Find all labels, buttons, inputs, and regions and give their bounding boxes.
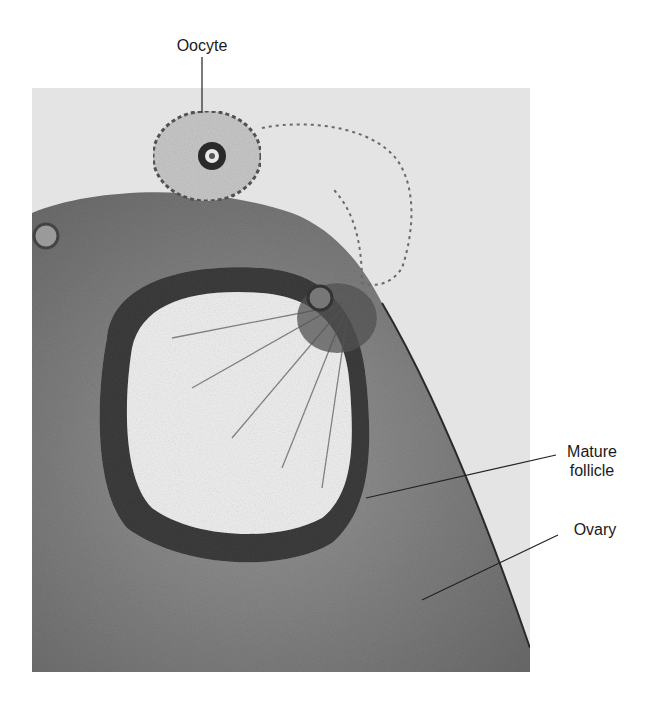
oocyte-label: Oocyte <box>162 36 242 55</box>
mature-follicle-label-line2: follicle <box>552 461 632 480</box>
ovary-label: Ovary <box>560 520 630 539</box>
leader-lines <box>0 0 662 713</box>
oocyte-label-text: Oocyte <box>177 37 228 54</box>
ovary-label-text: Ovary <box>574 521 617 538</box>
mature-follicle-label: Mature follicle <box>552 442 632 480</box>
mature-follicle-label-line1: Mature <box>552 442 632 461</box>
ovary-leader <box>422 535 558 600</box>
mature-follicle-leader <box>366 455 556 498</box>
